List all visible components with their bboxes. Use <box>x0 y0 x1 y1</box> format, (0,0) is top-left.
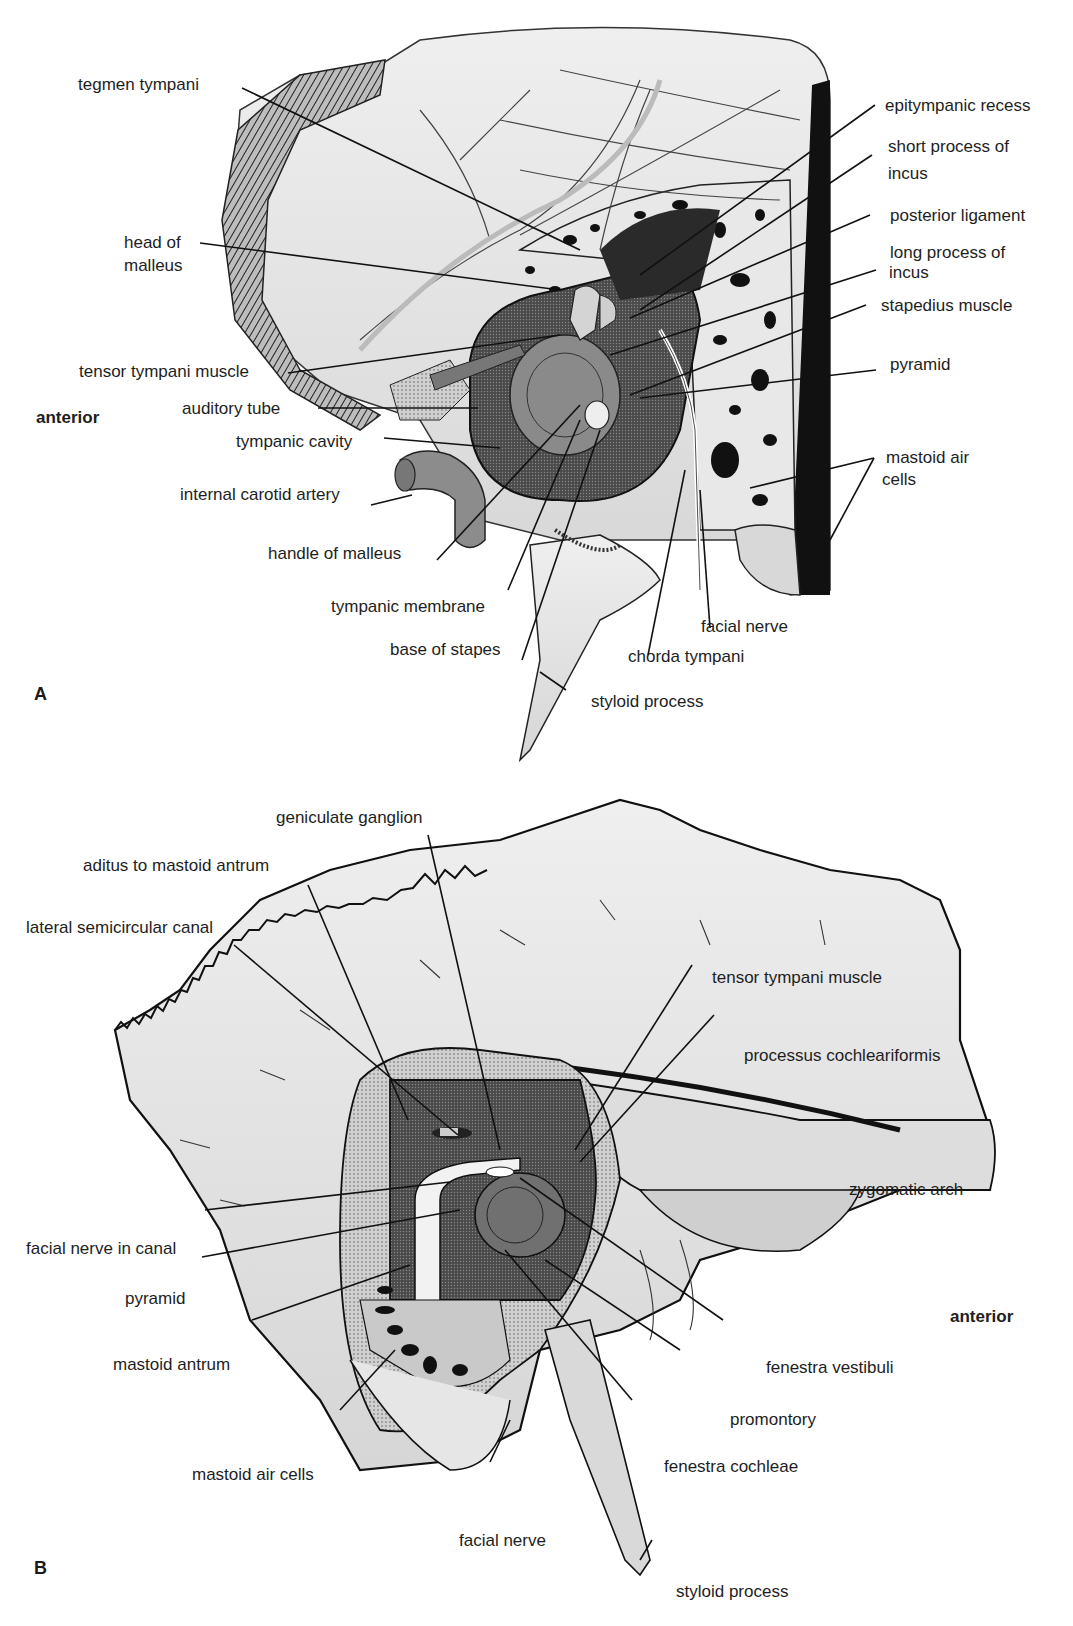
orientation-anterior-b: anterior <box>950 1307 1013 1327</box>
label-chorda-tympani: chorda tympani <box>628 647 744 667</box>
label-internal-carotid-artery: internal carotid artery <box>180 485 340 505</box>
label-tympanic-cavity: tympanic cavity <box>236 432 352 452</box>
label-mastoid-air-cells-b: mastoid air cells <box>192 1465 314 1485</box>
label-aditus-to-mastoid-antrum: aditus to mastoid antrum <box>83 856 269 876</box>
label-zygomatic-arch: zygomatic arch <box>849 1180 963 1200</box>
label-short-process-of-incus-line2: incus <box>888 164 928 184</box>
label-processus-cochleariformis: processus cochleariformis <box>744 1046 941 1066</box>
panel-letter-b: B <box>34 1558 47 1579</box>
label-fenestra-cochleae: fenestra cochleae <box>664 1457 798 1477</box>
label-facial-nerve-a: facial nerve <box>701 617 788 637</box>
label-handle-of-malleus: handle of malleus <box>268 544 401 564</box>
label-stapedius-muscle: stapedius muscle <box>881 296 1012 316</box>
label-long-process-of-incus-line1: long process of <box>890 243 1005 263</box>
label-fenestra-vestibuli: fenestra vestibuli <box>766 1358 894 1378</box>
label-facial-nerve-b: facial nerve <box>459 1531 546 1551</box>
label-tensor-tympani-muscle-a: tensor tympani muscle <box>79 362 249 382</box>
label-pyramid-b: pyramid <box>125 1289 185 1309</box>
panel-letter-a: A <box>34 684 47 705</box>
label-mastoid-air-cells-line2: cells <box>882 470 916 490</box>
label-auditory-tube: auditory tube <box>182 399 280 419</box>
label-tympanic-membrane: tympanic membrane <box>331 597 485 617</box>
label-pyramid-a: pyramid <box>890 355 950 375</box>
label-posterior-ligament: posterior ligament <box>890 206 1025 226</box>
orientation-anterior-a: anterior <box>36 408 99 428</box>
label-promontory: promontory <box>730 1410 816 1430</box>
label-mastoid-antrum: mastoid antrum <box>113 1355 230 1375</box>
label-tensor-tympani-muscle-b: tensor tympani muscle <box>712 968 882 988</box>
label-facial-nerve-in-canal: facial nerve in canal <box>26 1239 176 1259</box>
label-short-process-of-incus-line1: short process of <box>888 137 1009 157</box>
label-epitympanic-recess: epitympanic recess <box>885 96 1031 116</box>
label-head-of-malleus-line2: malleus <box>124 256 183 276</box>
label-styloid-process-a: styloid process <box>591 692 703 712</box>
label-tegmen-tympani: tegmen tympani <box>78 75 199 95</box>
label-head-of-malleus-line1: head of <box>124 233 181 253</box>
label-styloid-process-b: styloid process <box>676 1582 788 1602</box>
label-geniculate-ganglion: geniculate ganglion <box>276 808 423 828</box>
label-mastoid-air-cells-line1: mastoid air <box>886 448 969 468</box>
label-base-of-stapes: base of stapes <box>390 640 501 660</box>
label-long-process-of-incus-line2: incus <box>889 263 929 283</box>
label-lateral-semicircular-canal: lateral semicircular canal <box>26 918 213 938</box>
